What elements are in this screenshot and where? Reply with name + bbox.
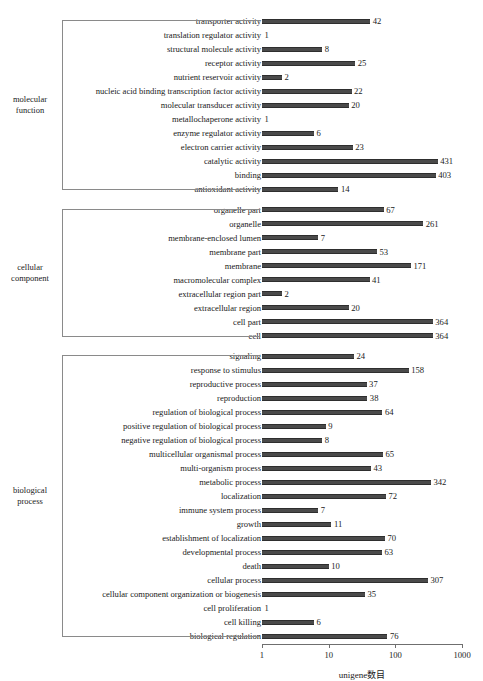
category-label: receptor activity bbox=[205, 56, 261, 70]
value-bar bbox=[262, 333, 433, 338]
value-label: 41 bbox=[372, 273, 381, 287]
value-label: 64 bbox=[385, 405, 394, 419]
chart-row: cell killing6 bbox=[0, 615, 483, 629]
category-label: establishment of localization bbox=[162, 531, 261, 545]
chart-row: metabolic process342 bbox=[0, 475, 483, 489]
chart-row: multicellular organismal process65 bbox=[0, 447, 483, 461]
category-label: cell killing bbox=[224, 615, 261, 629]
chart-row: positive regulation of biological proces… bbox=[0, 419, 483, 433]
value-label: 7 bbox=[321, 503, 325, 517]
x-axis-tick bbox=[329, 644, 330, 648]
value-bar bbox=[262, 592, 365, 597]
category-label: cell part bbox=[233, 315, 261, 329]
chart-row: extracellular region20 bbox=[0, 301, 483, 315]
chart-row: membrane171 bbox=[0, 259, 483, 273]
category-label: organelle part bbox=[214, 203, 261, 217]
x-axis-line bbox=[262, 644, 462, 645]
category-label: catalytic activity bbox=[204, 154, 261, 168]
category-label: growth bbox=[237, 517, 261, 531]
value-label: 158 bbox=[411, 363, 424, 377]
chart-row: macromolecular complex41 bbox=[0, 273, 483, 287]
category-label: multi-organism process bbox=[180, 461, 261, 475]
category-label: signaling bbox=[229, 349, 261, 363]
category-label: negative regulation of biological proces… bbox=[121, 433, 261, 447]
value-label: 2 bbox=[285, 70, 289, 84]
category-label: translation regulator activity bbox=[164, 28, 261, 42]
value-label: 342 bbox=[434, 475, 447, 489]
value-label: 6 bbox=[316, 126, 320, 140]
category-label: biological regulation bbox=[190, 629, 261, 643]
category-label: nutrient reservoir activity bbox=[174, 70, 261, 84]
category-label: developmental process bbox=[182, 545, 261, 559]
chart-row: signaling24 bbox=[0, 349, 483, 363]
category-label: immune system process bbox=[179, 503, 261, 517]
value-label: 14 bbox=[341, 182, 350, 196]
group-label-line: cellular bbox=[0, 262, 60, 273]
value-bar bbox=[262, 61, 355, 66]
value-label: 403 bbox=[438, 168, 451, 182]
category-label: membrane bbox=[225, 259, 261, 273]
chart-row: localization72 bbox=[0, 489, 483, 503]
chart-row: enzyme regulator activity6 bbox=[0, 126, 483, 140]
category-label: molecular transducer activity bbox=[161, 98, 261, 112]
chart-row: regulation of biological process64 bbox=[0, 405, 483, 419]
value-bar bbox=[262, 173, 436, 178]
value-bar bbox=[262, 249, 377, 254]
chart-row: antioxidant activity14 bbox=[0, 182, 483, 196]
category-label: membrane-enclosed lumen bbox=[168, 231, 261, 245]
category-label: binding bbox=[235, 168, 261, 182]
category-label: macromolecular complex bbox=[173, 273, 261, 287]
value-bar bbox=[262, 452, 383, 457]
value-bar bbox=[262, 410, 382, 415]
chart-row: binding403 bbox=[0, 168, 483, 182]
value-bar bbox=[262, 522, 331, 527]
value-label: 63 bbox=[385, 545, 394, 559]
value-bar bbox=[262, 187, 338, 192]
value-label: 261 bbox=[426, 217, 439, 231]
chart-row: reproduction38 bbox=[0, 391, 483, 405]
chart-row: growth11 bbox=[0, 517, 483, 531]
x-axis-tick bbox=[462, 644, 463, 648]
value-label: 38 bbox=[370, 391, 379, 405]
category-label: cellular process bbox=[207, 573, 261, 587]
value-label: 76 bbox=[390, 629, 399, 643]
value-bar bbox=[262, 508, 318, 513]
value-label: 2 bbox=[285, 287, 289, 301]
chart-row: receptor activity25 bbox=[0, 56, 483, 70]
value-bar bbox=[262, 564, 329, 569]
category-label: enzyme regulator activity bbox=[173, 126, 261, 140]
chart-row: nutrient reservoir activity2 bbox=[0, 70, 483, 84]
category-label: organelle bbox=[229, 217, 261, 231]
chart-row: reproductive process37 bbox=[0, 377, 483, 391]
category-label: cell bbox=[249, 329, 261, 343]
x-axis-tick-label: 1000 bbox=[454, 650, 471, 660]
chart-row: organelle261 bbox=[0, 217, 483, 231]
value-bar bbox=[262, 291, 282, 296]
value-label: 43 bbox=[373, 461, 382, 475]
value-label: 65 bbox=[385, 447, 394, 461]
category-label: cell proliferation bbox=[203, 601, 261, 615]
x-axis-tick-label: 10 bbox=[324, 650, 333, 660]
group-label-line: process bbox=[0, 496, 60, 507]
chart-row: nucleic acid binding transcription facto… bbox=[0, 84, 483, 98]
value-label: 20 bbox=[351, 98, 360, 112]
category-label: metabolic process bbox=[199, 475, 261, 489]
value-label: 67 bbox=[386, 203, 395, 217]
value-bar bbox=[262, 207, 384, 212]
value-label: 7 bbox=[321, 231, 325, 245]
category-label: nucleic acid binding transcription facto… bbox=[96, 84, 261, 98]
category-label: extracellular region bbox=[194, 301, 261, 315]
value-label: 9 bbox=[328, 419, 332, 433]
chart-row: extracellular region part2 bbox=[0, 287, 483, 301]
chart-row: negative regulation of biological proces… bbox=[0, 433, 483, 447]
chart-row: multi-organism process43 bbox=[0, 461, 483, 475]
value-label: 53 bbox=[380, 245, 389, 259]
value-label: 20 bbox=[351, 301, 360, 315]
value-bar bbox=[262, 131, 314, 136]
category-label: antioxidant activity bbox=[194, 182, 261, 196]
value-label: 35 bbox=[367, 587, 376, 601]
value-bar bbox=[262, 75, 282, 80]
category-label: transporter activity bbox=[196, 14, 261, 28]
category-label: membrane part bbox=[209, 245, 261, 259]
chart-row: cellular component organization or bioge… bbox=[0, 587, 483, 601]
